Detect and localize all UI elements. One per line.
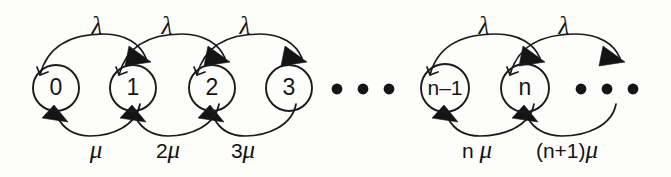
- birth-arrowhead-next: [599, 46, 625, 66]
- diagram-canvas: 0 1 2 3 n–1 n λ λ λ λ λ μ 2μ 3μ: [0, 0, 671, 177]
- birth-arrowhead-2: [204, 46, 230, 66]
- ellipsis-dot: [358, 84, 369, 95]
- birth-rate-label-n-minus-1: λ: [478, 12, 490, 39]
- death-rate-label-2: 2μ: [156, 136, 180, 163]
- death-arc-3-to-2: [214, 104, 296, 136]
- mu-glyph-1: μ: [89, 136, 103, 163]
- death-arrowhead-2: [198, 105, 224, 122]
- mu-glyph-n-plus-1: μ: [585, 136, 599, 163]
- birth-rate-label-n: λ: [558, 12, 570, 39]
- state-label-3: 3: [283, 74, 296, 100]
- death-arrowhead-n1: [432, 105, 458, 122]
- ellipsis-dot: [384, 84, 395, 95]
- birth-rate-label-2: λ: [239, 12, 251, 39]
- mu-glyph-3: μ: [242, 136, 256, 163]
- right-ellipsis: [576, 84, 639, 95]
- state-labels: 0 1 2 3 n–1 n: [50, 74, 532, 100]
- mu-glyph-2: μ: [167, 136, 181, 163]
- death-arrowhead-1: [120, 105, 146, 122]
- death-rate-label-n-plus-1: (n+1)μ: [536, 136, 598, 163]
- state-label-n-minus-1: n–1: [427, 76, 462, 99]
- state-label-n: n: [519, 74, 532, 100]
- death-arrowhead-0: [42, 105, 68, 122]
- death-arrowheads: [42, 105, 538, 122]
- death-arrowhead-n: [512, 105, 538, 122]
- state-label-2: 2: [206, 74, 219, 100]
- birth-rate-label-0: λ: [91, 12, 103, 39]
- death-rate-label-n: n μ: [462, 136, 492, 163]
- birth-arrowhead-3: [281, 46, 307, 66]
- death-arc-next-to-n: [528, 104, 616, 136]
- death-rate-label-1: μ: [89, 136, 103, 163]
- ellipsis-dot: [628, 84, 639, 95]
- ellipsis-dot: [602, 84, 613, 95]
- state-label-1: 1: [127, 74, 140, 100]
- birth-arrowheads: [125, 46, 625, 66]
- birth-rate-label-1: λ: [161, 12, 173, 39]
- middle-ellipsis: [332, 84, 395, 95]
- death-rate-labels: μ 2μ 3μ n μ (n+1)μ: [89, 136, 598, 163]
- birth-arrowhead-1: [125, 46, 151, 66]
- ellipsis-dot: [576, 84, 587, 95]
- death-rate-coef-3: 3: [231, 139, 243, 162]
- ellipsis-dot: [332, 84, 343, 95]
- state-label-0: 0: [50, 74, 63, 100]
- death-rate-coef-n-plus-1: (n+1): [536, 139, 586, 162]
- death-arc-1-to-0: [58, 104, 140, 136]
- markov-chain-diagram: 0 1 2 3 n–1 n λ λ λ λ λ μ 2μ 3μ: [0, 0, 671, 177]
- death-rate-coef-2: 2: [156, 139, 168, 162]
- mu-glyph-n: μ: [478, 136, 492, 163]
- death-rate-label-3: 3μ: [231, 136, 255, 163]
- death-rate-coef-n: n: [462, 139, 480, 162]
- birth-arrowhead-n: [519, 46, 545, 66]
